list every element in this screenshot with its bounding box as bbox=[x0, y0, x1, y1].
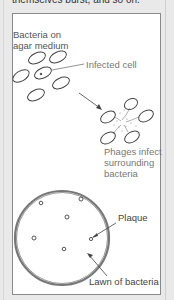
label-infected-cell: Infected cell bbox=[86, 59, 137, 70]
plaques bbox=[32, 197, 93, 251]
petri-dish bbox=[15, 191, 109, 285]
label-line: Phages infect bbox=[104, 146, 162, 157]
label-line: agar medium bbox=[13, 40, 68, 51]
label-line: Bacteria on bbox=[13, 29, 68, 40]
label-lawn-of-bacteria: Lawn of bacteria bbox=[89, 276, 159, 287]
bacteria-cluster bbox=[11, 49, 72, 104]
label-plaque: Plaque bbox=[118, 212, 148, 223]
label-bacteria-on-agar: Bacteria on agar medium bbox=[13, 29, 68, 51]
progression-arrow bbox=[79, 93, 100, 108]
infected-cell-pointer bbox=[52, 64, 84, 70]
label-phages-infect: Phages infect surrounding bacteria bbox=[104, 146, 162, 179]
infected-cell bbox=[33, 65, 54, 82]
label-line: surrounding bbox=[104, 157, 162, 168]
burst-cluster bbox=[99, 96, 156, 146]
phage-dots bbox=[113, 109, 136, 131]
label-line: bacteria bbox=[104, 168, 162, 179]
